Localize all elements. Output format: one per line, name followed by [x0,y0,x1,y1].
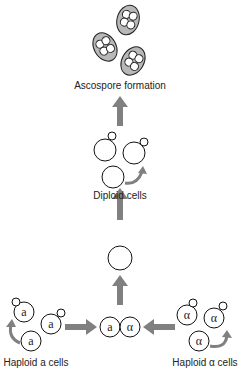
ascus-icon [116,43,150,80]
cell-letter-a: a [48,317,53,332]
arrow-right-icon [65,319,97,335]
label-ascospore-formation: Ascospore formation [74,80,166,91]
cell-letter-alpha: α [184,308,190,323]
cell-letter-a: a [107,320,112,335]
label-haploid-a-cells: Haploid a cells [3,357,68,368]
label-diploid-cells: Diploid cells [93,190,146,201]
label-haploid-alpha-cells: Haploid α cells [172,357,237,368]
cell-letter-alpha: α [211,311,217,326]
cell-letter-a: a [28,334,33,349]
cell-letter-a: a [21,305,26,320]
cell-letter-alpha: α [127,320,133,335]
arrow-up-icon [112,96,128,126]
ascus-icon [113,3,142,38]
haploid-alpha-cells [177,299,232,351]
asci-group [88,3,150,80]
diploid-cells [94,132,148,188]
zygote-cell [108,246,132,270]
life-cycle-diagram [0,0,241,375]
mating-pair [100,317,140,337]
budding-arrow-icon [125,172,142,183]
arrow-left-icon [143,319,175,335]
arrows [65,96,175,335]
budding-arrow-icon [10,325,20,343]
budding-arrow-icon [210,336,227,347]
cell-letter-alpha: α [196,334,202,349]
arrow-up-icon [112,275,128,305]
ascus-icon [88,29,122,66]
haploid-a-cells [6,298,65,351]
